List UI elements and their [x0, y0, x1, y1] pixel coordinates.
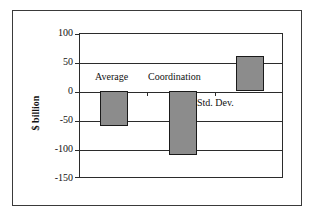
bar-label-std-dev: Std. Dev. — [197, 97, 234, 108]
chart-figure: $ billion 100 50 0 -50 -100 -150 Average… — [0, 0, 314, 217]
bar-label-coordination: Coordination — [148, 71, 201, 82]
plot-area: Average Coordination Std. Dev. — [79, 33, 283, 178]
axis-tick-neg150 — [75, 177, 80, 178]
y-tick-label-neg50: -50 — [33, 115, 73, 125]
x-category-tick-1 — [147, 92, 148, 96]
bar-std-dev[interactable] — [236, 56, 264, 91]
axis-tick-50 — [75, 63, 80, 64]
y-tick-label-neg150: -150 — [33, 173, 73, 183]
x-category-tick-2 — [215, 92, 216, 96]
y-tick-label-neg100: -100 — [33, 144, 73, 154]
axis-tick-100 — [75, 34, 80, 35]
bar-label-average: Average — [95, 71, 128, 82]
axis-tick-0 — [75, 92, 80, 93]
axis-tick-neg50 — [75, 121, 80, 122]
y-tick-label-0: 0 — [33, 86, 73, 96]
y-tick-label-100: 100 — [33, 28, 73, 38]
bar-coordination[interactable] — [169, 91, 197, 155]
bar-average[interactable] — [100, 91, 128, 125]
y-tick-label-50: 50 — [33, 57, 73, 67]
axis-tick-neg100 — [75, 150, 80, 151]
